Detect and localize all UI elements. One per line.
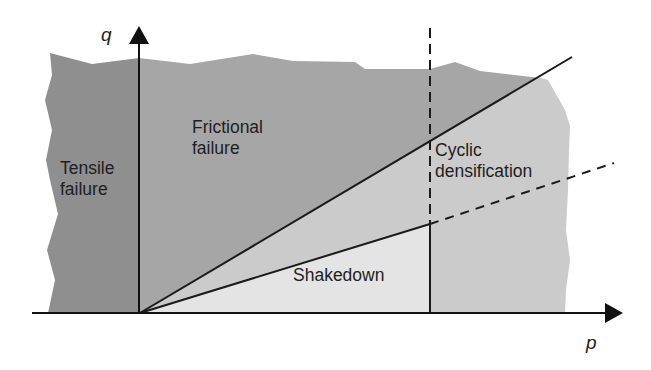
q-axis-arrowhead-icon	[129, 26, 149, 44]
tensile-label-line-1: Tensile	[60, 158, 114, 179]
tensile-label-line-2: failure	[60, 179, 114, 200]
frictional-label-line-1: Frictional	[192, 117, 263, 138]
shakedown-label: Shakedown	[293, 265, 384, 286]
frictional-failure-label: Frictional failure	[192, 117, 263, 159]
frictional-label-line-2: failure	[192, 138, 263, 159]
shakedown-label-line-1: Shakedown	[293, 265, 384, 286]
p-axis-label: p	[586, 332, 597, 354]
cyclic-label-line-1: Cyclic	[435, 140, 532, 161]
tensile-failure-label: Tensile failure	[60, 158, 114, 200]
cyclic-densification-label: Cyclic densification	[435, 140, 532, 182]
cyclic-label-line-2: densification	[435, 161, 532, 182]
p-axis-arrowhead-icon	[605, 303, 623, 323]
q-axis-label: q	[101, 24, 112, 46]
